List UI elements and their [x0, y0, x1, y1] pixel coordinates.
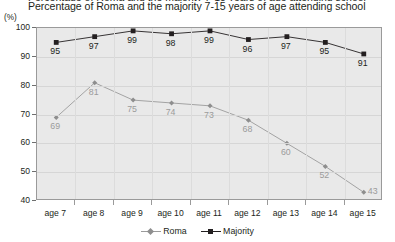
data-point-majority-age-12 — [246, 37, 251, 42]
data-label-majority-age-15: 91 — [358, 58, 368, 68]
x-axis-tick-label: age 11 — [196, 208, 222, 218]
majority-series-marker-icon — [201, 227, 221, 236]
y-axis-tick-mark — [32, 142, 36, 143]
data-point-roma-age-15 — [361, 190, 366, 195]
x-axis-tick-mark — [344, 200, 345, 205]
series-line-roma — [56, 83, 364, 193]
data-point-majority-age-11 — [208, 28, 213, 33]
chart-screenshot: Percentage of Roma and the majority 7-15… — [0, 0, 395, 242]
y-axis-tick-mark — [32, 27, 36, 28]
data-point-majority-age-15 — [361, 52, 366, 57]
x-axis-tick-mark — [74, 200, 75, 205]
data-label-roma-age-7: 69 — [50, 121, 60, 131]
x-axis-tick-label: age 14 — [311, 208, 337, 218]
x-gridline — [268, 28, 269, 199]
legend-item-roma[interactable]: Roma — [141, 225, 186, 236]
x-gridline — [114, 28, 115, 199]
y-axis-tick-label: 90 — [2, 51, 30, 61]
x-axis-tick-mark — [113, 200, 114, 205]
x-gridline — [345, 28, 346, 199]
y-axis-tick-label: 100 — [2, 22, 30, 32]
data-label-majority-age-9: 99 — [127, 35, 137, 45]
data-point-majority-age-9 — [131, 28, 136, 33]
legend-item-majority[interactable]: Majority — [201, 225, 254, 236]
x-gridline — [75, 28, 76, 199]
y-axis-tick-label: 60 — [2, 137, 30, 147]
data-point-roma-age-9 — [131, 98, 136, 103]
x-axis-tick-mark — [267, 200, 268, 205]
data-label-majority-age-8: 97 — [89, 41, 99, 51]
x-gridline — [191, 28, 192, 199]
x-axis-tick-label: age 7 — [44, 208, 66, 218]
data-label-roma-age-12: 68 — [243, 124, 253, 134]
data-point-majority-age-8 — [92, 34, 97, 39]
y-axis-tick-label: 70 — [2, 109, 30, 119]
x-axis-tick-label: age 8 — [83, 208, 105, 218]
x-axis-tick-label: age 12 — [234, 208, 260, 218]
y-axis-unit-label: (%) — [4, 13, 17, 22]
y-axis-tick-mark — [32, 85, 36, 86]
chart-title: Percentage of Roma and the majority 7-15… — [28, 0, 365, 12]
data-point-majority-age-10 — [169, 31, 174, 36]
data-point-majority-age-14 — [323, 40, 328, 45]
x-axis-tick-mark — [305, 200, 306, 205]
x-axis-tick-label: age 13 — [273, 208, 299, 218]
y-axis-tick-mark — [32, 200, 36, 201]
x-axis-tick-mark — [151, 200, 152, 205]
data-point-roma-age-12 — [246, 118, 251, 123]
data-label-roma-age-9: 75 — [127, 104, 137, 114]
legend-label-roma: Roma — [163, 226, 186, 236]
y-axis-tick-mark — [32, 171, 36, 172]
x-axis-tick-mark — [228, 200, 229, 205]
x-gridline — [229, 28, 230, 199]
data-point-roma-age-14 — [323, 164, 328, 169]
data-point-majority-age-7 — [54, 40, 59, 45]
data-label-majority-age-12: 96 — [243, 44, 253, 54]
y-axis-tick-label: 40 — [2, 195, 30, 205]
data-label-roma-age-10: 74 — [166, 107, 176, 117]
y-axis-tick-mark — [32, 56, 36, 57]
roma-series-marker-icon — [141, 227, 161, 236]
data-label-majority-age-14: 95 — [319, 46, 329, 56]
y-gridline — [37, 143, 381, 144]
y-axis-tick-mark — [32, 114, 36, 115]
y-axis-tick-label: 80 — [2, 80, 30, 90]
y-axis-tick-label: 50 — [2, 166, 30, 176]
data-label-majority-age-10: 98 — [166, 38, 176, 48]
y-gridline — [37, 57, 381, 58]
x-axis-tick-mark — [190, 200, 191, 205]
x-gridline — [306, 28, 307, 199]
data-label-roma-age-14: 52 — [319, 170, 329, 180]
data-label-majority-age-11: 99 — [204, 35, 214, 45]
data-label-roma-age-11: 73 — [204, 110, 214, 120]
data-label-roma-age-8: 81 — [89, 87, 99, 97]
data-point-roma-age-11 — [208, 103, 213, 108]
chart-legend: Roma Majority — [0, 225, 395, 236]
data-label-majority-age-7: 95 — [50, 46, 60, 56]
x-gridline — [152, 28, 153, 199]
legend-label-majority: Majority — [223, 226, 254, 236]
data-label-roma-age-15: 43 — [368, 186, 378, 196]
data-label-roma-age-13: 60 — [281, 147, 291, 157]
x-axis-tick-label: age 15 — [350, 208, 376, 218]
x-axis-tick-label: age 9 — [121, 208, 143, 218]
data-label-majority-age-13: 97 — [281, 41, 291, 51]
x-axis-tick-label: age 10 — [157, 208, 183, 218]
data-point-roma-age-10 — [169, 100, 174, 105]
data-point-majority-age-13 — [284, 34, 289, 39]
